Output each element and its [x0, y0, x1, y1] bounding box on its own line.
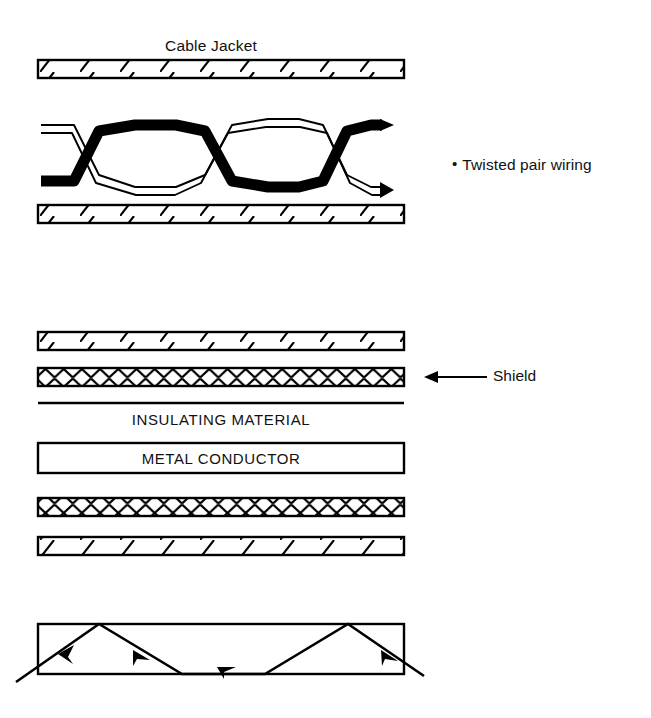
coax-jacket-bottom: [38, 537, 404, 555]
light-wire-arrow-tip: [380, 182, 394, 198]
fiber-optic-group: [16, 624, 424, 682]
dark-wire-arrow-tip: [380, 119, 394, 131]
jacket-bar-second: [38, 205, 404, 223]
coax-jacket-top: [38, 332, 404, 350]
coax-shield-top: [38, 368, 404, 386]
coax-shield-bottom: [38, 498, 404, 516]
jacket-bar-top: [38, 60, 404, 78]
fiber-core-outline: [38, 624, 404, 674]
page-title: Cable Jacket: [165, 37, 257, 55]
cable-construction-diagram: [0, 0, 651, 718]
twisted-pair-group: [41, 119, 394, 198]
shield-label: Shield: [493, 367, 536, 385]
metal-conductor-label: METAL CONDUCTOR: [38, 450, 404, 467]
twisted-pair-dark-wire: [41, 125, 382, 187]
twisted-pair-label: •Twisted pair wiring: [452, 156, 592, 174]
diagram-page: Cable Jacket •Twisted pair wiring Shield…: [0, 0, 651, 718]
insulating-material-label: INSULATING MATERIAL: [38, 411, 404, 428]
shield-callout-arrow: [424, 371, 487, 383]
bullet-icon: •: [452, 155, 457, 172]
twisted-pair-label-text: Twisted pair wiring: [462, 156, 591, 173]
